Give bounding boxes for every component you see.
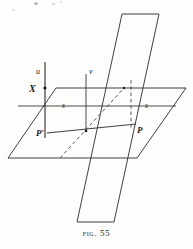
label-v: v bbox=[89, 68, 93, 76]
horizontal-plane-outline bbox=[8, 88, 186, 158]
geometry-diagram bbox=[0, 0, 193, 249]
figure-caption-prefix: Fig. bbox=[83, 228, 97, 238]
label-s-left: s bbox=[62, 102, 65, 110]
label-s-right: s bbox=[145, 102, 148, 110]
label-P-prime: P′ bbox=[36, 129, 44, 138]
vertical-plane bbox=[77, 14, 159, 222]
label-P: P bbox=[137, 126, 143, 135]
label-X: X bbox=[29, 84, 36, 94]
figure-container: u X v s s P′ P Fig. 55 bbox=[0, 0, 193, 249]
label-u: u bbox=[36, 68, 40, 76]
segment-P-prime-to-P bbox=[47, 124, 136, 133]
dashed-diagonal-line bbox=[60, 88, 124, 158]
figure-caption-number: 55 bbox=[100, 228, 110, 238]
figure-caption: Fig. 55 bbox=[0, 228, 193, 238]
point-X-marker bbox=[43, 86, 46, 89]
plane-intersection-marker bbox=[123, 87, 125, 89]
vertical-plane-outline bbox=[77, 14, 159, 222]
horizontal-plane bbox=[8, 88, 186, 158]
